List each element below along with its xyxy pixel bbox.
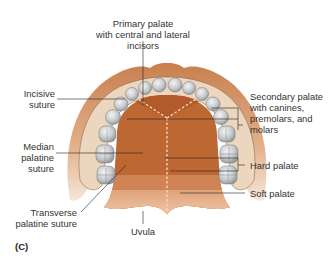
- panel-label: (C): [15, 241, 28, 252]
- label-line: Secondary palate: [250, 91, 333, 102]
- label-line: premolars, and: [250, 113, 333, 124]
- label-median-palatine-suture: Median palatine suture: [10, 141, 54, 174]
- label-line: Transverse: [5, 207, 77, 218]
- label-soft-palate: Soft palate: [250, 188, 295, 199]
- label-incisive-suture: Incisive suture: [10, 88, 55, 110]
- label-line: suture: [10, 99, 55, 110]
- label-line: with canines,: [250, 102, 333, 113]
- label-hard-palate: Hard palate: [250, 160, 298, 171]
- label-line: Median: [10, 141, 54, 152]
- label-primary-palate: Primary palate with central and lateral …: [82, 18, 204, 51]
- label-secondary-palate: Secondary palate with canines, premolars…: [250, 91, 333, 135]
- label-line: Primary palate: [82, 18, 204, 29]
- label-uvula: Uvula: [120, 226, 166, 237]
- label-line: suture: [10, 163, 54, 174]
- label-line: palatine: [10, 152, 54, 163]
- label-line: with central and lateral incisors: [82, 29, 204, 51]
- label-line: palatine suture: [5, 218, 77, 229]
- label-line: Incisive: [10, 88, 55, 99]
- label-line: molars: [250, 124, 333, 135]
- label-transverse-palatine-suture: Transverse palatine suture: [5, 207, 77, 229]
